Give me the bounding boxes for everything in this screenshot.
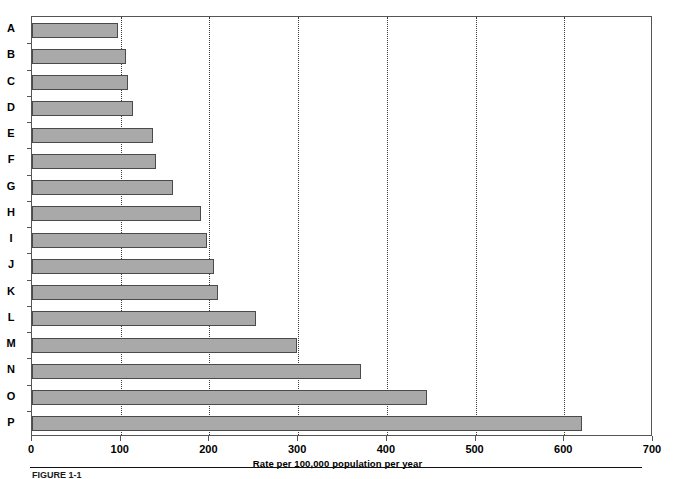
x-tick-100 bbox=[120, 436, 121, 441]
y-axis-label-a: A bbox=[0, 22, 24, 34]
bar-b bbox=[32, 49, 126, 64]
bar-j bbox=[32, 259, 214, 274]
figure-caption: FIGURE 1-1 bbox=[32, 470, 644, 479]
bar-p bbox=[32, 416, 582, 431]
bar-e bbox=[32, 128, 153, 143]
bar-row bbox=[32, 311, 651, 326]
y-axis-label-p: P bbox=[0, 416, 24, 428]
bar-row bbox=[32, 75, 651, 90]
y-axis-label-l: L bbox=[0, 311, 24, 323]
y-tick bbox=[27, 306, 32, 307]
y-axis-label-n: N bbox=[0, 363, 24, 375]
y-axis-label-d: D bbox=[0, 101, 24, 113]
y-tick bbox=[27, 70, 32, 71]
bar-row bbox=[32, 364, 651, 379]
bar-row bbox=[32, 338, 651, 353]
bar-a bbox=[32, 23, 118, 38]
bar-row bbox=[32, 259, 651, 274]
x-axis-label-600: 600 bbox=[533, 443, 593, 455]
y-tick bbox=[27, 122, 32, 123]
bar-i bbox=[32, 233, 207, 248]
bar-m bbox=[32, 338, 297, 353]
x-tick-0 bbox=[31, 436, 32, 441]
bar-row bbox=[32, 49, 651, 64]
bar-c bbox=[32, 75, 128, 90]
x-tick-300 bbox=[297, 436, 298, 441]
y-tick bbox=[27, 385, 32, 386]
bar-row bbox=[32, 180, 651, 195]
bar-g bbox=[32, 180, 173, 195]
bar-row bbox=[32, 101, 651, 116]
bar-k bbox=[32, 285, 218, 300]
caption-divider bbox=[30, 467, 642, 468]
y-axis-label-m: M bbox=[0, 337, 24, 349]
bar-row bbox=[32, 390, 651, 405]
y-axis-label-i: I bbox=[0, 232, 24, 244]
bar-row bbox=[32, 416, 651, 431]
bar-row bbox=[32, 23, 651, 38]
x-axis-label-500: 500 bbox=[445, 443, 505, 455]
y-tick bbox=[27, 148, 32, 149]
y-tick bbox=[27, 227, 32, 228]
y-tick bbox=[27, 280, 32, 281]
x-tick-700 bbox=[652, 436, 653, 441]
y-axis-label-k: K bbox=[0, 285, 24, 297]
y-axis-label-b: B bbox=[0, 48, 24, 60]
x-axis-label-100: 100 bbox=[90, 443, 150, 455]
bar-row bbox=[32, 154, 651, 169]
y-axis-label-e: E bbox=[0, 127, 24, 139]
y-axis-label-j: J bbox=[0, 258, 24, 270]
x-tick-600 bbox=[563, 436, 564, 441]
y-tick bbox=[27, 253, 32, 254]
y-axis-label-g: G bbox=[0, 180, 24, 192]
x-axis-label-300: 300 bbox=[267, 443, 327, 455]
y-axis-label-h: H bbox=[0, 206, 24, 218]
y-axis-label-f: F bbox=[0, 153, 24, 165]
y-tick bbox=[27, 332, 32, 333]
x-tick-500 bbox=[475, 436, 476, 441]
y-tick bbox=[27, 358, 32, 359]
bar-d bbox=[32, 101, 133, 116]
bar-l bbox=[32, 311, 256, 326]
y-axis-label-c: C bbox=[0, 75, 24, 87]
y-axis-label-o: O bbox=[0, 390, 24, 402]
bar-f bbox=[32, 154, 156, 169]
y-tick bbox=[27, 43, 32, 44]
x-axis-label-700: 700 bbox=[622, 443, 675, 455]
bar-row bbox=[32, 285, 651, 300]
y-tick bbox=[27, 201, 32, 202]
y-tick bbox=[27, 96, 32, 97]
bar-row bbox=[32, 206, 651, 221]
x-axis-label-400: 400 bbox=[356, 443, 416, 455]
x-tick-400 bbox=[386, 436, 387, 441]
bar-h bbox=[32, 206, 201, 221]
bar-n bbox=[32, 364, 361, 379]
plot-area bbox=[31, 16, 652, 436]
bar-row bbox=[32, 233, 651, 248]
x-axis-label-200: 200 bbox=[178, 443, 238, 455]
y-tick bbox=[27, 411, 32, 412]
bar-o bbox=[32, 390, 427, 405]
x-axis-label-0: 0 bbox=[1, 443, 61, 455]
y-tick bbox=[27, 175, 32, 176]
bars-layer bbox=[32, 17, 651, 435]
x-tick-200 bbox=[208, 436, 209, 441]
bar-row bbox=[32, 128, 651, 143]
figure-container: ABCDEFGHIJKLMNOP 0100200300400500600700 … bbox=[0, 0, 675, 479]
